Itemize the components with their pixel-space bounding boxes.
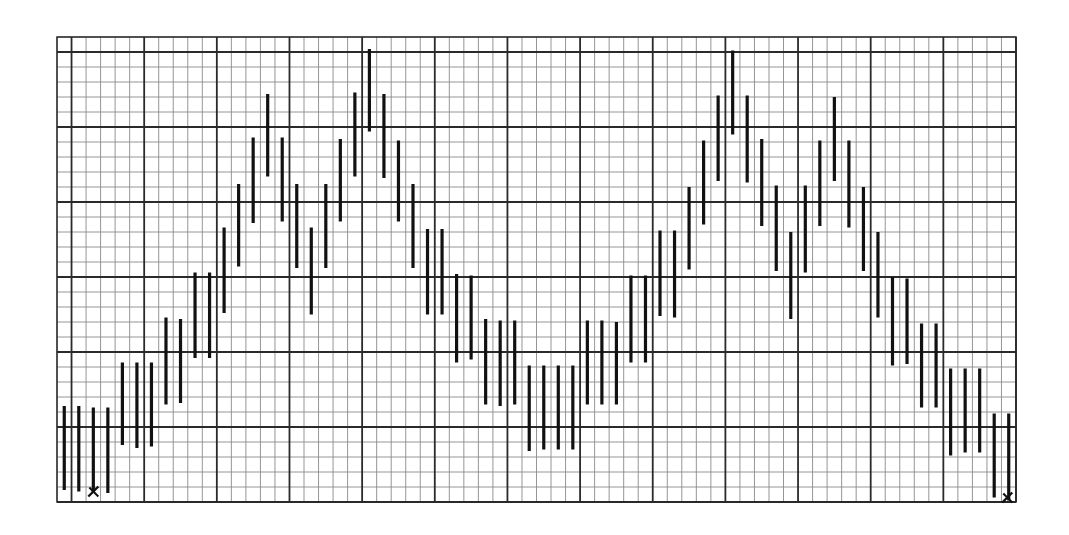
chart-canvas	[0, 0, 1069, 535]
minor-grid-lines	[57, 37, 1016, 502]
graph-paper-chart	[0, 0, 1069, 535]
x-markers	[88, 487, 1012, 503]
